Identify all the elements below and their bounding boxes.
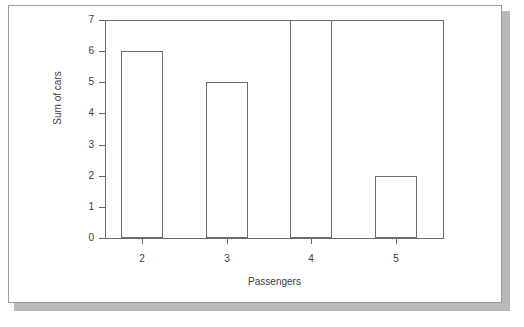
y-axis-tick-label: 6 <box>74 46 94 56</box>
bar-chart: 0 1 2 3 4 5 6 7 Sum of cars 2 3 4 <box>0 0 524 327</box>
x-axis-tick-label: 3 <box>207 254 247 264</box>
x-axis-tick-label: 4 <box>291 254 331 264</box>
y-axis-tick <box>99 238 105 239</box>
page-root: 0 1 2 3 4 5 6 7 Sum of cars 2 3 4 <box>0 0 524 327</box>
x-axis-tick-label: 5 <box>376 254 416 264</box>
y-axis-tick-label: 4 <box>74 108 94 118</box>
y-axis-tick <box>99 176 105 177</box>
x-axis-tick <box>227 238 228 244</box>
bar-category-4 <box>290 20 332 238</box>
x-axis-title: Passengers <box>105 276 444 287</box>
x-axis-baseline <box>105 238 444 239</box>
y-axis-title: Sum of cars <box>52 58 63 138</box>
y-axis-tick-label: 3 <box>74 140 94 150</box>
y-axis-tick-label: 0 <box>74 233 94 243</box>
y-axis-tick-label: 7 <box>74 15 94 25</box>
y-axis-tick <box>99 207 105 208</box>
bar-category-2 <box>121 51 163 238</box>
y-axis-tick <box>99 113 105 114</box>
x-axis-tick <box>396 238 397 244</box>
x-axis-tick <box>311 238 312 244</box>
x-axis-tick <box>142 238 143 244</box>
y-axis-tick <box>99 51 105 52</box>
y-axis-tick <box>99 145 105 146</box>
y-axis-tick <box>99 20 105 21</box>
x-axis-tick-label: 2 <box>122 254 162 264</box>
y-axis-tick-label: 1 <box>74 202 94 212</box>
bar-category-3 <box>206 82 248 238</box>
y-axis-tick <box>99 82 105 83</box>
y-axis-tick-label: 5 <box>74 77 94 87</box>
bar-category-5 <box>375 176 417 238</box>
y-axis-tick-label: 2 <box>74 171 94 181</box>
